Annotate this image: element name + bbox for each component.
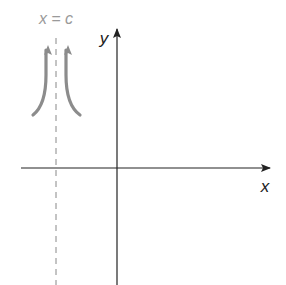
- left-branch-curve: [33, 50, 46, 115]
- y-axis-label: y: [99, 29, 110, 48]
- asymptote-diagram: x = c y x: [0, 0, 286, 285]
- right-branch-curve: [66, 50, 80, 115]
- asymptote-label: x = c: [38, 10, 73, 27]
- x-axis-label: x: [260, 177, 270, 196]
